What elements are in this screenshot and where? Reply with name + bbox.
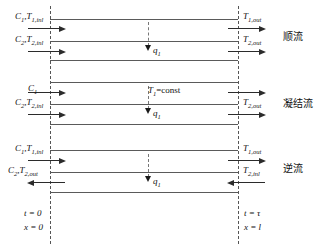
outlet-arrow-stream1 (228, 160, 260, 161)
channel-wall (50, 41, 238, 42)
channel-wall (50, 60, 238, 61)
inlet-label-stream2-parallel: C2,T2,inl (15, 34, 43, 46)
outlet-arrow-stream1 (228, 28, 260, 29)
constant-temperature-note: T1=const (148, 85, 180, 97)
heat-flux-arrowhead (145, 176, 151, 182)
outlet-arrow-stream2 (33, 182, 65, 183)
mode-label-parallel-flow: 顺流 (283, 28, 303, 43)
heat-flux-line (148, 22, 149, 46)
inlet-arrow-stream2 (28, 51, 60, 52)
axis-right-time: t = τ (244, 208, 260, 218)
channel-wall (50, 19, 238, 20)
inlet-arrow-stream2 (28, 114, 60, 115)
axis-left-position: x = 0 (24, 222, 43, 232)
heat-flux-arrowhead (145, 45, 151, 51)
mode-label-condensing-flow: 凝结流 (283, 95, 313, 110)
channel-wall (50, 192, 238, 193)
heat-flux-label-condensing: q1 (153, 108, 161, 120)
outlet-label-stream2-counter: C2,T2,out (8, 165, 38, 177)
mode-label-counter-flow: 逆流 (283, 160, 303, 175)
axis-right-position: x = l (244, 222, 261, 232)
outlet-arrow-stream2 (228, 51, 260, 52)
inlet-label-stream1-parallel: C1,T1,inl (15, 11, 43, 23)
outlet-arrow-stream2 (228, 114, 260, 115)
channel-wall (50, 124, 238, 125)
heat-flux-line (148, 154, 149, 177)
inlet-arrow-stream2 (233, 182, 265, 183)
outlet-label-stream2-condensing: T2,out (243, 97, 261, 109)
outlet-label-stream2-parallel: T2,out (243, 34, 261, 46)
heat-flux-label-counter: q1 (153, 176, 161, 188)
channel-wall (50, 150, 238, 151)
outlet-arrow-stream1 (228, 92, 260, 93)
inlet-arrow-stream1 (28, 28, 60, 29)
heat-flux-label-parallel: q1 (153, 45, 161, 57)
outlet-label-stream1-counter: T1,out (243, 143, 261, 155)
heat-flux-arrowhead (145, 108, 151, 114)
channel-wall (50, 172, 238, 173)
flow-diagram-canvas: q1 C1,T1,inl C2,T2,inl T1,out T2,out 顺流 … (0, 0, 318, 249)
inlet-label-stream1-condensing: C1 (28, 83, 37, 95)
channel-wall (50, 104, 238, 105)
axis-left-time: t = 0 (24, 208, 42, 218)
channel-wall (50, 82, 238, 83)
inlet-label-stream2-condensing: C2,T2,inl (15, 97, 43, 109)
outlet-label-stream1-parallel: T1,out (243, 11, 261, 23)
inlet-arrow-stream1 (28, 160, 60, 161)
inlet-label-stream2-counter: T2,inl (243, 165, 260, 177)
inlet-label-stream1-counter: C1,T1,inl (15, 143, 43, 155)
boundary-line-outlet (238, 6, 239, 244)
